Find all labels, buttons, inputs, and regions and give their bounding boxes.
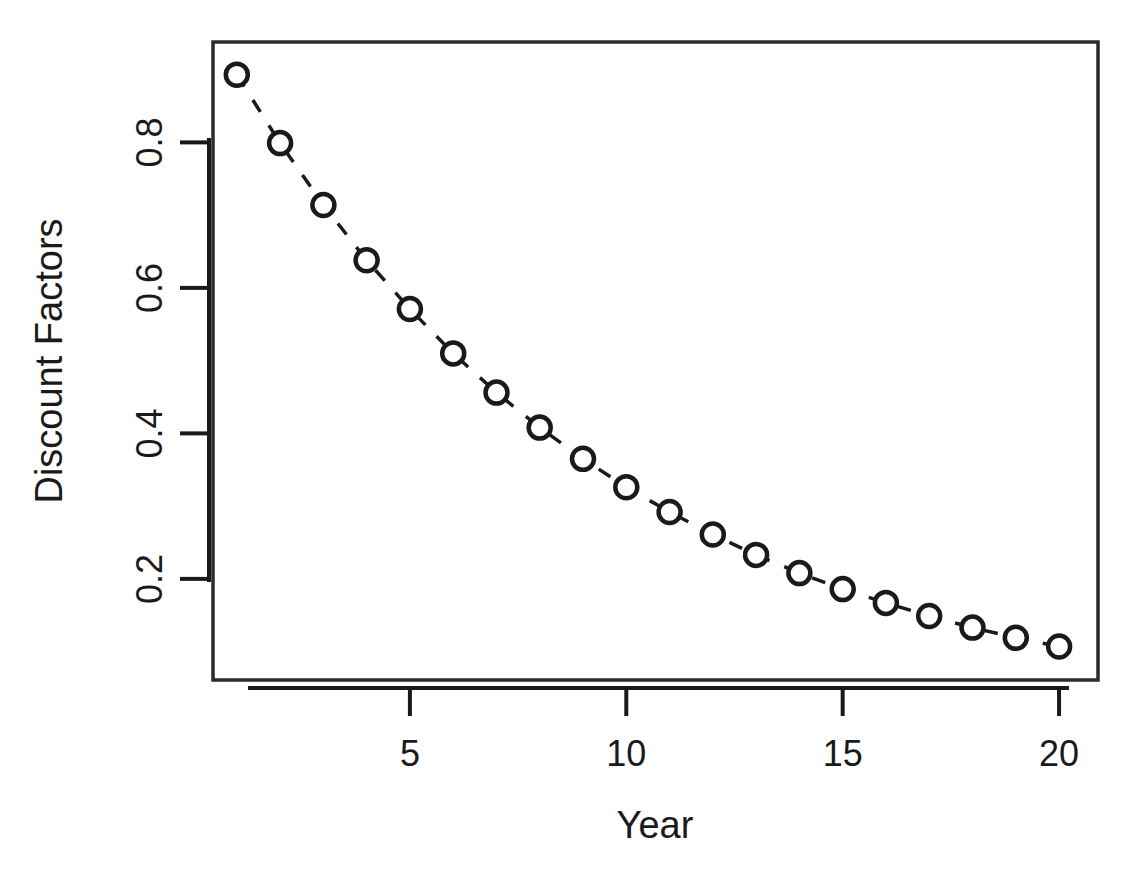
y-axis-title: Discount Factors (28, 218, 70, 503)
data-point-marker (962, 617, 984, 639)
data-point-marker (745, 544, 767, 566)
data-point-marker (788, 562, 810, 584)
data-point-marker (1048, 636, 1070, 658)
discount-factors-plot: 0.20.40.60.8 5101520 Discount Factors Ye… (0, 0, 1137, 880)
data-point-marker (529, 417, 551, 439)
x-tick-label: 5 (400, 733, 420, 774)
x-axis-title: Year (617, 804, 694, 846)
data-point-marker (615, 476, 637, 498)
y-tick-label: 0.8 (130, 117, 171, 167)
data-point-marker (269, 132, 291, 154)
x-tick-label: 10 (606, 733, 646, 774)
data-point-marker (875, 592, 897, 614)
plot-background (0, 0, 1137, 880)
y-tick-label: 0.6 (130, 263, 171, 313)
data-point-marker (832, 578, 854, 600)
data-point-marker (486, 382, 508, 404)
data-point-marker (312, 194, 334, 216)
data-point-marker (356, 249, 378, 271)
data-point-marker (918, 605, 940, 627)
data-point-marker (399, 298, 421, 320)
data-point-marker (659, 501, 681, 523)
y-tick-label: 0.2 (130, 554, 171, 604)
data-point-marker (572, 448, 594, 470)
data-point-marker (226, 64, 248, 86)
x-tick-label: 15 (823, 733, 863, 774)
x-tick-label: 20 (1039, 733, 1079, 774)
data-point-marker (1005, 627, 1027, 649)
data-point-marker (442, 342, 464, 364)
chart-page: 0.20.40.60.8 5101520 Discount Factors Ye… (0, 0, 1137, 880)
data-point-marker (702, 524, 724, 546)
y-tick-label: 0.4 (130, 408, 171, 458)
